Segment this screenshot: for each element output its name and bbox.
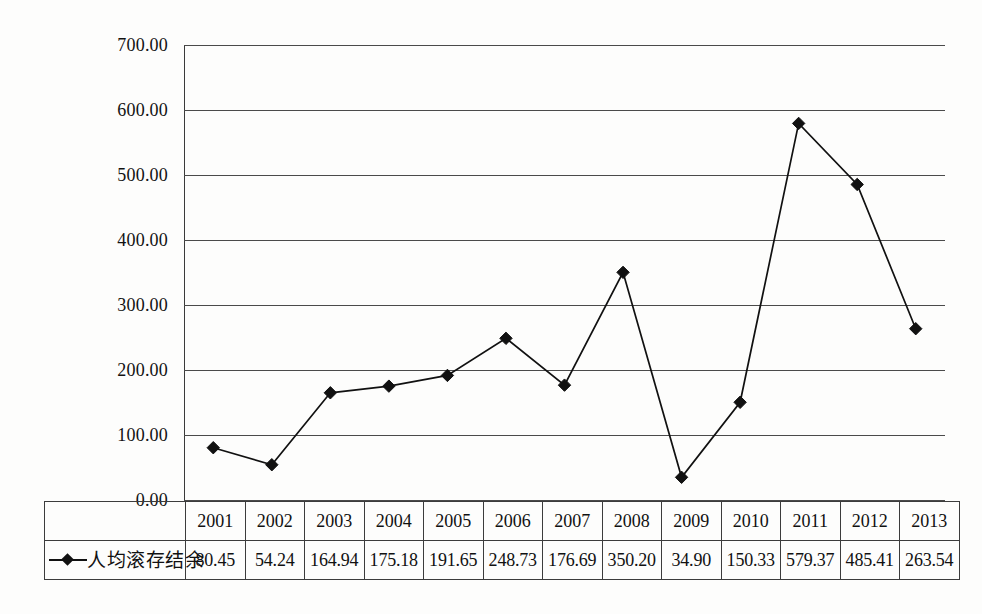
table-row-years: 2001200220032004200520062007200820092010… <box>45 502 960 541</box>
data-point-marker <box>207 442 219 454</box>
y-tick-label: 300.00 <box>117 296 168 314</box>
table-header-year: 2004 <box>364 502 424 541</box>
table-cell-value: 263.54 <box>900 541 960 580</box>
legend-diamond-line-icon <box>49 552 87 568</box>
data-point-marker <box>910 322 922 334</box>
data-point-marker <box>617 266 629 278</box>
data-table: 2001200220032004200520062007200820092010… <box>44 501 945 578</box>
table-cell-value: 175.18 <box>364 541 424 580</box>
y-tick-label: 500.00 <box>117 166 168 184</box>
table-cell-value: 164.94 <box>305 541 365 580</box>
table-cell-value: 350.20 <box>602 541 662 580</box>
legend-entry: 人均滚存结余 <box>45 541 186 580</box>
table-header-year: 2011 <box>781 502 841 541</box>
table-header-year: 2010 <box>721 502 781 541</box>
table-cell-value: 176.69 <box>543 541 603 580</box>
y-tick-label: 100.00 <box>117 426 168 444</box>
table-header-year: 2009 <box>662 502 722 541</box>
y-tick-label: 200.00 <box>117 361 168 379</box>
table-header-year: 2013 <box>900 502 960 541</box>
table-header-year: 2005 <box>424 502 484 541</box>
table-header-year: 2008 <box>602 502 662 541</box>
y-tick-label: 700.00 <box>117 36 168 54</box>
data-point-marker <box>441 369 453 381</box>
table-cell-value: 248.73 <box>483 541 543 580</box>
table-cell-value: 34.90 <box>662 541 722 580</box>
table-corner-blank <box>45 502 186 541</box>
plot-area <box>184 45 945 500</box>
table-header-year: 2001 <box>186 502 246 541</box>
table-cell-value: 191.65 <box>424 541 484 580</box>
y-tick-label: 600.00 <box>117 101 168 119</box>
table-header-year: 2006 <box>483 502 543 541</box>
series-markers <box>207 117 922 483</box>
table-cell-value: 485.41 <box>840 541 900 580</box>
legend-label: 人均滚存结余 <box>87 551 204 570</box>
line-chart-figure: 700.00600.00500.00400.00300.00200.00100.… <box>0 0 982 614</box>
y-tick-label: 400.00 <box>117 231 168 249</box>
table-header-year: 2003 <box>305 502 365 541</box>
table-header-year: 2007 <box>543 502 603 541</box>
table-header-year: 2002 <box>245 502 305 541</box>
table-cell-value: 579.37 <box>781 541 841 580</box>
table-cell-value: 54.24 <box>245 541 305 580</box>
table-cell-value: 150.33 <box>721 541 781 580</box>
series-layer <box>184 45 945 500</box>
data-point-marker <box>383 380 395 392</box>
series-line-renjun-gucun-jieyu <box>213 123 915 477</box>
table-row-values: 人均滚存结余 80.4554.24164.94175.18191.65248.7… <box>45 541 960 580</box>
table-header-year: 2012 <box>840 502 900 541</box>
